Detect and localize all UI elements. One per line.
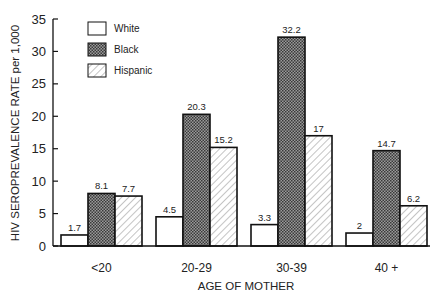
bar-chart: 05101520253035 1.78.17.74.520.315.23.332… [0,0,438,299]
legend-label: White [114,23,140,34]
bar-group: 4.520.315.2 [156,101,237,246]
y-tick-label: 15 [32,141,46,156]
x-category-label: 40 + [375,261,399,275]
bar-group: 214.76.2 [346,138,427,246]
legend-swatch [88,64,106,77]
bar-black [183,114,210,246]
value-label: 32.2 [282,24,301,35]
value-label: 20.3 [187,101,206,112]
legend-label: Hispanic [114,65,152,76]
bar-white [251,225,278,246]
legend-label: Black [114,44,139,55]
y-tick-label: 35 [32,12,46,27]
value-label: 2 [357,220,362,231]
value-label: 15.2 [214,134,233,145]
y-tick-label: 0 [39,239,46,254]
bar-white [156,217,183,246]
bars: 1.78.17.74.520.315.23.332.217214.76.2 [61,24,427,246]
bar-black [278,37,305,246]
x-axis-title: AGE OF MOTHER [198,280,294,292]
value-label: 4.5 [163,204,176,215]
bar-hispanic [210,147,237,246]
bar-white [61,235,88,246]
bar-group: 1.78.17.7 [61,180,142,246]
bar-group: 3.332.217 [251,24,332,246]
y-tick-label: 20 [32,109,46,124]
y-tick-label: 10 [32,174,46,189]
bar-hispanic [115,196,142,246]
bar-white [346,233,373,246]
x-category-label: <20 [91,261,112,275]
bar-black [373,151,400,246]
value-label: 6.2 [407,193,420,204]
value-label: 8.1 [95,180,108,191]
bar-black [88,193,115,246]
bar-hispanic [305,136,332,246]
x-category-label: 20-29 [181,261,212,275]
x-category-label: 30-39 [276,261,307,275]
legend-item-black: Black [88,43,139,56]
legend-swatch [88,22,106,35]
y-axis: 05101520253035 [32,12,58,254]
bar-hispanic [400,206,427,246]
y-tick-label: 5 [39,206,46,221]
value-label: 7.7 [122,183,135,194]
value-label: 17 [313,123,324,134]
x-axis: <2020-2930-3940 + [53,246,430,275]
y-tick-label: 25 [32,76,46,91]
legend-swatch [88,43,106,56]
legend-item-white: White [88,22,140,35]
legend: WhiteBlackHispanic [88,22,152,77]
value-label: 3.3 [258,212,271,223]
legend-item-hispanic: Hispanic [88,64,152,77]
y-axis-title: HIV SEROPREVALENCE RATE per 1,000 [9,25,21,241]
value-label: 1.7 [68,222,81,233]
y-tick-label: 30 [32,44,46,59]
value-label: 14.7 [377,138,396,149]
